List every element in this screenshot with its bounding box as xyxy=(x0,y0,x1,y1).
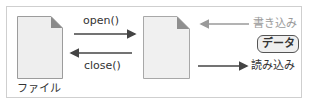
file-label: ファイル xyxy=(17,83,61,94)
read-label: 読み込み xyxy=(251,60,295,71)
open-label: open() xyxy=(83,15,119,26)
folded-corner xyxy=(177,17,190,30)
file-object-icon xyxy=(144,17,190,79)
file-icon xyxy=(18,17,63,79)
write-label: 書き込み xyxy=(253,18,297,29)
close-label: close() xyxy=(84,60,121,71)
data-badge: データ xyxy=(257,35,299,53)
